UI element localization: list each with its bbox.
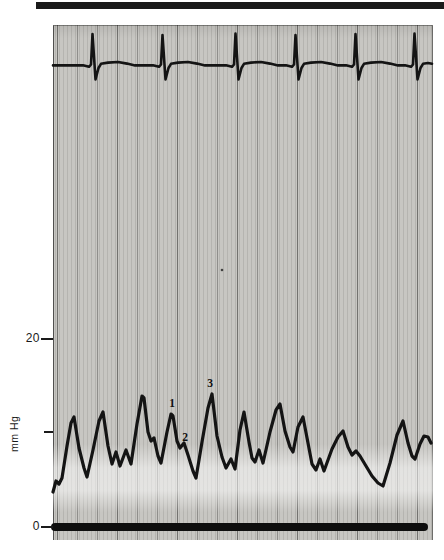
y-tick-label: 20 [8, 331, 40, 345]
y-axis-label: mm Hg [8, 416, 20, 452]
y-tick-dash [41, 338, 53, 340]
photo-top-bar [36, 2, 444, 9]
y-tick-label: 0 [8, 519, 40, 533]
wave-annotation-1: 1 [169, 398, 175, 409]
y-tick-dash [44, 431, 53, 433]
paper-light-band [53, 444, 433, 512]
scanned-figure: 200 mm Hg 123 [0, 0, 444, 560]
wave-annotation-3: 3 [207, 378, 213, 389]
y-tick-dash [41, 526, 53, 528]
wave-annotation-2: 2 [182, 432, 188, 443]
